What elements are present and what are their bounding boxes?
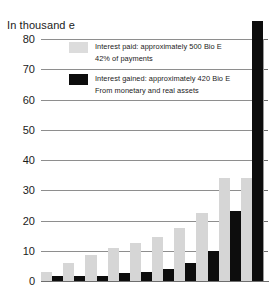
legend-item-paid: Interest paid: approximately 500 Bio E 4… bbox=[69, 41, 261, 64]
bar-paid bbox=[219, 178, 230, 281]
bar-gained bbox=[52, 276, 63, 281]
y-axis-right-line bbox=[263, 39, 264, 282]
bar-gained bbox=[119, 273, 130, 281]
y-tick-label-60: 60 bbox=[23, 94, 35, 105]
bar-gained bbox=[97, 276, 108, 281]
y-tick-label-0: 0 bbox=[29, 276, 35, 287]
legend: Interest paid: approximately 500 Bio E 4… bbox=[69, 41, 261, 105]
legend-swatch-gained bbox=[69, 74, 88, 85]
bar-chart: In thousand e 80706050403020100 Interest… bbox=[0, 0, 272, 295]
bar-gained bbox=[74, 276, 85, 281]
y-tick-label-20: 20 bbox=[23, 215, 35, 226]
bar-paid bbox=[108, 248, 119, 281]
legend-label-paid: Interest paid: approximately 500 Bio E 4… bbox=[95, 41, 222, 64]
y-tick-label-30: 30 bbox=[23, 185, 35, 196]
legend-swatch-paid bbox=[69, 42, 88, 53]
bar-paid bbox=[130, 243, 141, 281]
bar-gained bbox=[163, 269, 174, 281]
bar-paid bbox=[152, 237, 163, 281]
bar-gained bbox=[208, 251, 219, 281]
bar-group bbox=[41, 39, 63, 281]
y-tick-label-70: 70 bbox=[23, 64, 35, 75]
legend-item-gained: Interest gained: approximately 420 Bio E… bbox=[69, 73, 261, 96]
legend-label-gained-line1: Interest gained: approximately 420 Bio E bbox=[95, 73, 230, 85]
legend-label-paid-line1: Interest paid: approximately 500 Bio E bbox=[95, 41, 222, 53]
y-tick-label-50: 50 bbox=[23, 124, 35, 135]
x-axis-baseline bbox=[41, 281, 269, 282]
bar-paid bbox=[196, 213, 207, 281]
bar-paid bbox=[41, 272, 52, 281]
bar-paid bbox=[241, 178, 252, 281]
bar-paid bbox=[174, 228, 185, 281]
bar-gained bbox=[230, 211, 241, 281]
y-tick-label-80: 80 bbox=[23, 34, 35, 45]
legend-label-paid-line2: 42% of payments bbox=[95, 53, 222, 65]
legend-label-gained: Interest gained: approximately 420 Bio E… bbox=[95, 73, 230, 96]
bar-paid bbox=[85, 255, 96, 281]
bar-gained bbox=[141, 272, 152, 281]
y-tick-label-10: 10 bbox=[23, 245, 35, 256]
bar-gained bbox=[185, 263, 196, 281]
legend-label-gained-line2: From monetary and real assets bbox=[95, 85, 230, 97]
bar-paid bbox=[63, 263, 74, 281]
y-tick-label-40: 40 bbox=[23, 155, 35, 166]
page-title: In thousand e bbox=[7, 19, 75, 31]
